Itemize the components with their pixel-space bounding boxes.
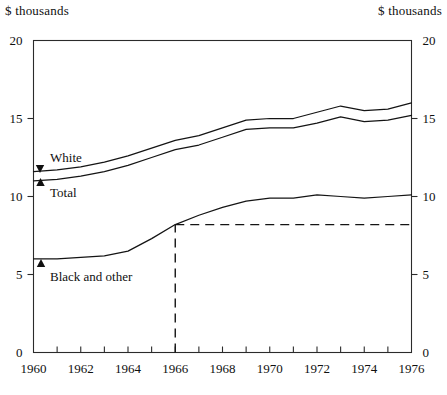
series-annotation: Total	[36, 178, 77, 200]
series-line	[34, 115, 412, 181]
y-tick-label-right: 5	[423, 267, 430, 282]
y-tick-label-right: 10	[423, 189, 436, 204]
plot-frame	[34, 41, 412, 353]
y-tick-label-right: 0	[423, 345, 430, 360]
series-label: Black and other	[50, 269, 133, 284]
x-tick-label: 1962	[68, 361, 94, 376]
y-axis-left-ticks	[28, 119, 34, 275]
x-tick-label: 1968	[210, 361, 236, 376]
y-tick-label-right: 20	[423, 33, 436, 48]
x-tick-label: 1972	[304, 361, 330, 376]
plot-area: 196019621964196619681970197219741976 051…	[0, 0, 447, 395]
x-tick-label: 1974	[351, 361, 378, 376]
x-axis-ticks	[57, 347, 388, 353]
x-tick-label: 1966	[162, 361, 189, 376]
up-arrow-icon	[37, 259, 45, 267]
income-line-chart: $ thousands $ thousands 1960196219641966…	[0, 0, 447, 395]
y-axis-right-tick-labels: 05101520	[423, 33, 436, 360]
y-tick-label-left: 20	[10, 33, 23, 48]
series-label: White	[50, 150, 82, 165]
series-line	[34, 195, 412, 259]
y-tick-label-left: 0	[16, 345, 23, 360]
y-tick-label-left: 5	[16, 267, 23, 282]
y-tick-label-right: 15	[423, 111, 436, 126]
up-arrow-icon	[36, 178, 44, 186]
series-annotation: Black and other	[37, 259, 133, 284]
y-tick-label-left: 10	[10, 189, 23, 204]
y-axis-left-tick-labels: 05101520	[10, 33, 23, 360]
reference-lines	[175, 225, 411, 353]
x-axis-tick-labels: 196019621964196619681970197219741976	[21, 361, 426, 376]
x-tick-label: 1964	[115, 361, 142, 376]
x-tick-label: 1970	[257, 361, 283, 376]
x-tick-label: 1976	[399, 361, 426, 376]
y-axis-right-ticks	[412, 119, 418, 275]
y-tick-label-left: 15	[10, 111, 23, 126]
x-tick-label: 1960	[21, 361, 47, 376]
series-label: Total	[50, 185, 77, 200]
series-lines	[34, 103, 412, 259]
